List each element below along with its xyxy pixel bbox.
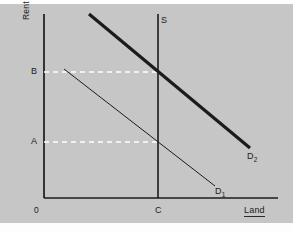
y-tick-label-a: A (31, 136, 37, 146)
origin-label: 0 (34, 205, 39, 215)
demand-curve-d1-label: D1 (215, 186, 226, 198)
demand-d1-letter: D (215, 186, 222, 196)
land-rent-figure: Rent B A 0 C S Land D1 D2 (0, 0, 293, 231)
plot-canvas (0, 0, 293, 231)
supply-curve-label: S (161, 15, 167, 25)
demand-curve-d2 (89, 14, 250, 148)
demand-curve-d2-label: D2 (247, 151, 258, 163)
demand-curve-d1 (64, 69, 215, 186)
x-tick-label-c: C (155, 205, 162, 215)
demand-d1-subscript: 1 (222, 191, 226, 198)
demand-d2-letter: D (247, 151, 254, 161)
demand-d2-subscript: 2 (254, 156, 258, 163)
x-axis-label: Land (244, 205, 265, 217)
y-tick-label-b: B (31, 66, 37, 76)
y-axis-label: Rent (21, 1, 31, 20)
